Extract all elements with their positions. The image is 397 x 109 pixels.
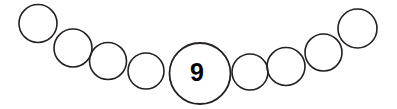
- chain-circle-2: [54, 29, 92, 67]
- circle-chain-diagram: 9: [0, 0, 397, 109]
- chain-circle-9: [338, 9, 377, 48]
- labels-layer: 9: [190, 58, 204, 86]
- chain-circle-3: [90, 43, 127, 80]
- chain-circle-1: [19, 5, 57, 43]
- chain-circle-8: [305, 34, 342, 71]
- chain-circle-6: [232, 54, 268, 90]
- chain-circle-4: [128, 53, 164, 89]
- circle-chain-svg: 9: [0, 0, 397, 109]
- circle-label-5: 9: [190, 58, 204, 86]
- chain-circle-7: [267, 48, 305, 86]
